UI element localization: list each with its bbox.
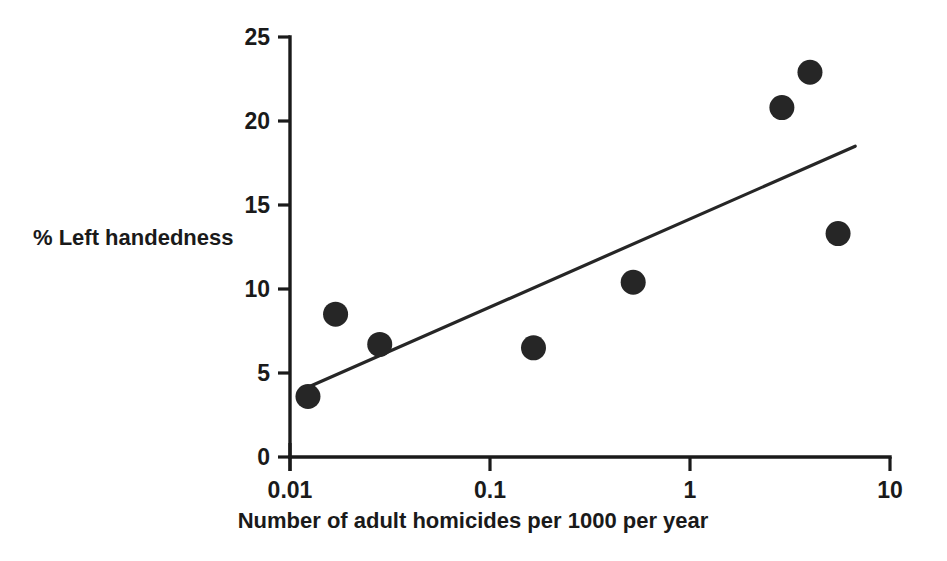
data-point	[295, 384, 320, 409]
y-tick-label: 25	[215, 24, 270, 51]
data-point	[797, 60, 822, 85]
data-points	[295, 60, 850, 409]
y-tick-label: 5	[215, 360, 270, 387]
data-point	[769, 95, 794, 120]
x-axis-title: Number of adult homicides per 1000 per y…	[238, 508, 709, 534]
x-tick-label: 1	[684, 477, 697, 504]
data-point	[621, 270, 646, 295]
data-point	[323, 302, 348, 327]
y-tick-label: 10	[215, 276, 270, 303]
data-point	[367, 332, 392, 357]
x-tick-label: 0.1	[474, 477, 506, 504]
data-point	[521, 335, 546, 360]
y-axis-title: % Left handedness	[33, 225, 233, 251]
y-tick-label: 20	[215, 108, 270, 135]
x-tick-label: 10	[877, 477, 903, 504]
data-point	[826, 221, 851, 246]
y-tick-label: 15	[215, 192, 270, 219]
axes	[278, 37, 890, 471]
y-tick-label: 0	[215, 444, 270, 471]
scatter-chart-figure: 05101520250.010.1110 % Left handedness N…	[0, 0, 947, 561]
x-tick-label: 0.01	[268, 477, 313, 504]
